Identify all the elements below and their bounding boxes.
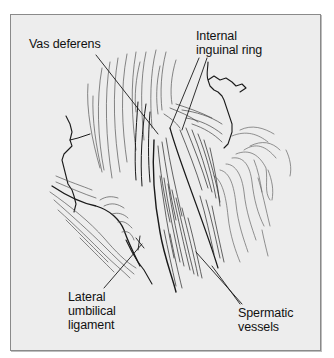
- peritoneal-fibers: [88, 50, 176, 178]
- internal-ring-outline: [207, 62, 246, 148]
- leader-lateral-umbilical: [104, 244, 142, 288]
- label-lateral-umbilical-ligament: Lateral umbilical ligament: [68, 290, 116, 332]
- leader-spermatic-2: [196, 252, 242, 304]
- label-spermatic-vessels: Spermatic vessels: [238, 306, 293, 334]
- label-internal-inguinal-ring: Internal inguinal ring: [196, 29, 262, 57]
- peritoneal-edge: [62, 116, 76, 212]
- leader-spermatic-1: [212, 266, 240, 304]
- inguinal-anatomy-illustration: [0, 0, 334, 358]
- vas-deferens-band: [153, 128, 218, 292]
- abdominal-wall-fibers: [214, 127, 291, 262]
- label-vas-deferens: Vas deferens: [29, 37, 101, 51]
- leader-vas-deferens: [96, 55, 158, 134]
